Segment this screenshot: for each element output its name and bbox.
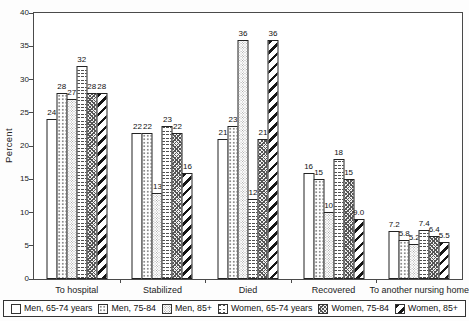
bar-value-label: 28 xyxy=(97,83,106,91)
bar-value-label: 22 xyxy=(173,123,182,131)
x-tick-mark xyxy=(291,279,292,283)
bar-value-label: 5.5 xyxy=(439,232,450,240)
legend-item: Men, 65-74 years xyxy=(11,304,92,314)
bar-value-label: 28 xyxy=(57,83,66,91)
y-tick-label: 20 xyxy=(4,142,29,150)
bar-group: 242827322828To hospital xyxy=(34,13,120,279)
legend-item: Women, 65-74 years xyxy=(218,304,313,314)
legend-item: Men, 85+ xyxy=(162,304,212,314)
bar xyxy=(182,173,193,279)
bar-value-label: 21 xyxy=(259,129,268,137)
bar-cluster: 7.25.85.27.46.45.5 xyxy=(389,13,450,279)
bar-slot: 36 xyxy=(267,13,278,279)
category-label: Stabilized xyxy=(143,285,182,295)
y-tick-label: 40 xyxy=(4,9,29,17)
bar-value-label: 16 xyxy=(183,163,192,171)
y-tick-label: 15 xyxy=(4,175,29,183)
bar-slot: 9.0 xyxy=(353,13,364,279)
legend-label: Men, 65-74 years xyxy=(24,304,92,313)
y-tick-label: 10 xyxy=(4,209,29,217)
legend: Men, 65-74 yearsMen, 75-84Men, 85+Women,… xyxy=(3,300,466,317)
bar-slot: 16 xyxy=(182,13,193,279)
legend-label: Women, 85+ xyxy=(408,304,458,313)
bar-value-label: 32 xyxy=(77,56,86,64)
y-tick-label: 0 xyxy=(4,275,29,283)
bar-slot: 28 xyxy=(96,13,107,279)
bar-chart-figure: Percent 0510152025303540242827322828To h… xyxy=(0,0,469,321)
category-label: Died xyxy=(239,285,258,295)
bar-cluster: 222213232216 xyxy=(132,13,193,279)
y-tick-label: 30 xyxy=(4,76,29,84)
bar-value-label: 12 xyxy=(249,189,258,197)
bar-value-label: 9.0 xyxy=(353,209,364,217)
bar-group: 212336122136Died xyxy=(205,13,291,279)
crosshatch-swatch-icon xyxy=(318,304,328,314)
y-tick-label: 5 xyxy=(4,242,29,250)
bar-group: 7.25.85.27.46.45.5To another nursing hom… xyxy=(376,13,462,279)
category-label: Recovered xyxy=(312,285,356,295)
bar-value-label: 16 xyxy=(304,163,313,171)
bar xyxy=(439,242,450,279)
bar xyxy=(96,93,107,279)
category-label: To hospital xyxy=(55,285,98,295)
plot-area: Percent 0510152025303540242827322828To h… xyxy=(33,12,463,280)
y-tick-label: 25 xyxy=(4,109,29,117)
bar-group: 16151018159.0Recovered xyxy=(291,13,377,279)
bar-value-label: 22 xyxy=(143,123,152,131)
plain-swatch-icon xyxy=(11,304,21,314)
bar-value-label: 36 xyxy=(239,30,248,38)
x-tick-mark xyxy=(376,279,377,283)
bar-value-label: 23 xyxy=(163,116,172,124)
bar-cluster: 212336122136 xyxy=(217,13,278,279)
bar-group: 222213232216Stabilized xyxy=(120,13,206,279)
zigzag-swatch-icon xyxy=(218,304,228,314)
legend-label: Women, 65-74 years xyxy=(231,304,313,313)
legend-label: Women, 75-84 xyxy=(331,304,389,313)
legend-item: Women, 75-84 xyxy=(318,304,389,314)
dots-swatch-icon xyxy=(98,304,108,314)
bar-value-label: 28 xyxy=(87,83,96,91)
bar-value-label: 36 xyxy=(269,30,278,38)
x-tick-mark xyxy=(120,279,121,283)
diagonal-stripes-swatch-icon xyxy=(395,304,405,314)
category-label: To another nursing home xyxy=(369,285,469,295)
bar-value-label: 15 xyxy=(344,169,353,177)
bar-value-label: 22 xyxy=(133,123,142,131)
legend-item: Men, 75-84 xyxy=(98,304,156,314)
bar xyxy=(353,219,364,279)
legend-item: Women, 85+ xyxy=(395,304,458,314)
bar-value-label: 21 xyxy=(219,129,228,137)
bar-value-label: 23 xyxy=(229,116,238,124)
y-tick-label: 35 xyxy=(4,42,29,50)
bar-value-label: 15 xyxy=(314,169,323,177)
bar-value-label: 13 xyxy=(153,183,162,191)
bar-cluster: 242827322828 xyxy=(46,13,107,279)
bar-slot: 5.5 xyxy=(439,13,450,279)
bar-value-label: 18 xyxy=(334,149,343,157)
legend-label: Men, 85+ xyxy=(175,304,212,313)
bar-value-label: 10 xyxy=(324,202,333,210)
bar-value-label: 27 xyxy=(67,89,76,97)
bar-cluster: 16151018159.0 xyxy=(303,13,364,279)
bar-value-label: 24 xyxy=(47,109,56,117)
legend-label: Men, 75-84 xyxy=(111,304,156,313)
x-tick-mark xyxy=(205,279,206,283)
bar xyxy=(267,40,278,279)
stipple-swatch-icon xyxy=(162,304,172,314)
